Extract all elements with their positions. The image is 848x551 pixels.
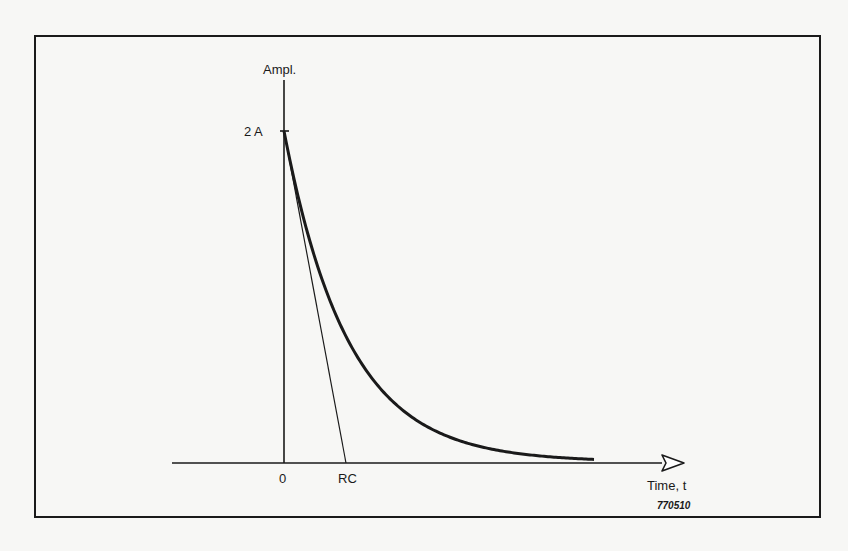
peak-label: 2 A [244,124,263,139]
x-axis-arrowhead-icon [662,455,684,471]
decay-curve [284,131,594,459]
figure-code: 770510 [657,500,690,511]
x-axis-label: Time, t [647,478,686,493]
rc-label: RC [338,471,357,486]
origin-label: 0 [279,471,286,486]
frame [35,36,820,517]
y-axis-label: Ampl. [263,62,296,77]
decay-diagram [0,0,848,551]
